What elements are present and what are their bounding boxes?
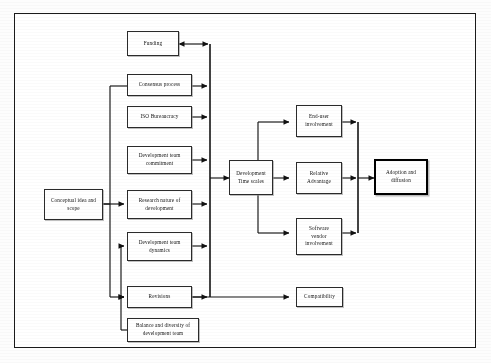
node-relative-advantage[interactable]: Relative Advantage	[296, 162, 342, 194]
node-software-vendor-line2: vendor	[305, 233, 333, 241]
node-dev-team-commitment-line1: Development team	[139, 152, 181, 160]
node-dev-team-dynamics-line2: dynamics	[139, 247, 181, 255]
node-balance-diversity-line2: development team	[136, 330, 190, 338]
node-end-user-line1: End-user	[305, 113, 333, 121]
node-end-user-line2: involvement	[305, 121, 333, 129]
node-consensus-process[interactable]: Consensus process	[127, 74, 192, 96]
node-dev-team-commitment[interactable]: Development team commitment	[127, 146, 192, 174]
node-dev-time-scales-line1: Development	[236, 170, 266, 178]
node-conceptual-idea[interactable]: Conceptual idea and scope	[44, 189, 103, 220]
node-dev-team-dynamics[interactable]: Development team dynamics	[127, 232, 192, 261]
node-adoption-line2: diffusion	[386, 177, 416, 185]
node-dev-team-dynamics-line1: Development team	[139, 239, 181, 247]
node-revisions-label: Revisions	[149, 293, 171, 301]
node-funding[interactable]: Funding	[127, 31, 179, 56]
node-revisions[interactable]: Revisions	[127, 286, 192, 308]
node-balance-diversity[interactable]: Balance and diversity of development tea…	[127, 318, 199, 342]
node-adoption-diffusion[interactable]: Adoption and diffusion	[374, 159, 428, 195]
node-software-vendor-line1: Software	[305, 225, 333, 233]
node-dev-time-scales-line2: Time scales	[236, 178, 266, 186]
node-compatibility-label: Compatibility	[304, 293, 335, 301]
node-relative-advantage-line1: Relative	[307, 170, 331, 178]
node-research-nature-line2: development	[139, 205, 181, 213]
node-adoption-line1: Adoption and	[386, 169, 416, 177]
node-research-nature-line1: Research nature of	[139, 197, 181, 205]
node-software-vendor-line3: involvement	[305, 240, 333, 248]
node-end-user-involvement[interactable]: End-user involvement	[296, 105, 342, 137]
node-consensus-process-label: Consensus process	[139, 81, 181, 89]
node-dev-team-commitment-line2: commitment	[139, 160, 181, 168]
node-research-nature[interactable]: Research nature of development	[127, 190, 192, 219]
node-compatibility[interactable]: Compatibility	[296, 287, 343, 307]
node-balance-diversity-line1: Balance and diversity of	[136, 322, 190, 330]
node-dev-time-scales[interactable]: Development Time scales	[229, 160, 273, 195]
node-funding-label: Funding	[144, 40, 162, 48]
node-conceptual-idea-line1: Conceptual idea and scope	[47, 197, 100, 212]
node-iso-bureaucracy-label: ISO Bureaucracy	[140, 113, 178, 121]
node-iso-bureaucracy[interactable]: ISO Bureaucracy	[127, 106, 192, 128]
node-relative-advantage-line2: Advantage	[307, 178, 331, 186]
node-software-vendor[interactable]: Software vendor involvement	[296, 218, 342, 255]
diagram-canvas: Conceptual idea and scope Funding Consen…	[0, 0, 491, 363]
